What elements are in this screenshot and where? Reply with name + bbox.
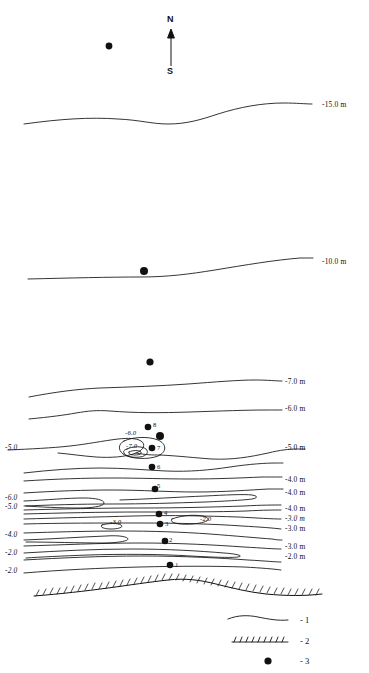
depth-label-right: -4.0 m [285,476,306,483]
sample-point-label: 1 [175,561,178,568]
depth-label-left: -5.0 [5,503,18,510]
contour-line-7 [29,380,282,397]
point-dot-icon [264,657,271,664]
contour-line-4c [24,498,104,508]
contour-line-2b [24,556,281,562]
inline-contour-label: -6.0 [125,430,136,437]
depth-label-left: -5.0 [5,444,18,451]
contour-line-icon [228,616,288,621]
sample-point-dot [167,562,174,569]
depth-label-left: -2.0 [5,567,18,574]
depth-label-left: -6.0 [5,494,18,501]
inline-contour-label: -2.0 [200,516,211,523]
sample-point-dot [156,511,163,518]
sample-point-dot [156,432,164,440]
contour-line-2a [24,549,240,558]
sample-point-dot [157,521,164,528]
sample-point-label: 3 [165,520,168,527]
depth-label-right: -4.0 m [285,489,306,496]
sample-point-dot [146,358,153,365]
contour-line-10 [28,258,313,279]
contour-line-2c [24,566,281,573]
sample-point-label: 6 [157,463,160,470]
sample-point-dot [149,464,156,471]
sample-point-label: 4 [164,509,167,516]
contour-line-3b [24,516,281,519]
contour-line-15 [24,103,312,124]
depth-label-right: -5.0 m [285,444,306,451]
contour-plate-svg [0,0,369,673]
north-arrow-icon [168,29,175,66]
sample-point-dot [149,445,156,452]
depth-label-right: -10.0 m [322,258,346,265]
sample-point-dot [162,538,169,545]
sample-point-dot [106,43,113,50]
contour-line-3d [24,531,282,540]
sample-point-dot [145,424,152,431]
contour-line-6 [29,410,282,419]
contour-line-3a [24,510,281,514]
depth-label-right: -7.0 m [285,378,306,385]
depth-label-right: -2.0 m [285,553,306,560]
legend-item-1-label: - 1 [300,615,309,625]
compass-north-label: N [167,14,174,24]
inline-contour-label: -7.0 [126,443,137,450]
sample-point-label: 2 [169,536,172,543]
contour-line-4a2 [24,477,282,481]
depth-label-right: -15.0 m [322,101,346,108]
sample-point-label: 8 [153,421,156,428]
legend-item-2-label: - 2 [300,636,309,646]
sample-point-label: 7 [157,444,160,451]
hatch-ticks [36,574,319,596]
hatched-boundary-line [34,574,322,596]
contour-map-figure: N S -15.0 m -10.0 m -7.0 m -6.0 m -5.0 m… [0,0,369,673]
depth-label-left: -2.0 [5,549,18,556]
compass-south-label: S [167,66,173,76]
depth-label-right: -4.0 m [285,505,306,512]
closed-contour-7b [129,451,141,456]
depth-label-right: -3.0 m [285,543,306,550]
contour-line-3e [24,536,128,543]
hatched-line-icon [232,637,288,642]
depth-label-right: -6.0 m [285,405,306,412]
legend-item-3-label: - 3 [300,656,309,666]
depth-label-right: -3.0 m [285,515,305,522]
hatched-baseline [34,579,322,596]
sample-point-label: 5 [157,482,160,489]
legend-symbols [228,616,288,665]
contour-line-3f [24,543,281,549]
contour-lines-group [8,103,313,573]
contour-line-4d [24,495,257,506]
depth-label-left: -4.0 [5,531,18,538]
depth-label-right: -3.0 m [285,525,306,532]
inline-contour-label: -3.0 [110,519,121,526]
contour-line-3c [24,523,281,529]
contour-line-5-right [160,449,305,459]
sample-point-dot [140,267,148,275]
